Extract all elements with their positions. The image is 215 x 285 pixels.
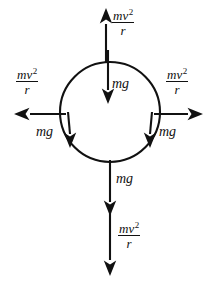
fraction-mv2r: mv2 r xyxy=(112,9,134,37)
fraction-denominator: r xyxy=(112,23,134,37)
vector-mv2r-top xyxy=(100,8,112,62)
label-mv2r-left: mv2 r xyxy=(16,68,38,96)
numerator-exponent: 2 xyxy=(33,66,38,76)
vector-mv2r-left xyxy=(14,108,66,120)
fraction-denominator: r xyxy=(166,82,188,96)
numerator-text: mv xyxy=(119,221,134,236)
numerator-exponent: 2 xyxy=(129,7,134,17)
numerator-exponent: 2 xyxy=(135,220,140,230)
fraction-numerator: mv2 xyxy=(166,68,188,82)
label-mv2r-bottom: mv2 r xyxy=(118,222,140,250)
label-mg-bottom: mg xyxy=(116,172,133,186)
vector-mg-bottom xyxy=(104,160,116,216)
label-mg-top: mg xyxy=(112,77,129,91)
force-diagram: mv2 r mv2 r mv2 r mv2 r mg mg mg mg xyxy=(0,0,215,285)
diagram-canvas xyxy=(0,0,215,285)
label-mv2r-top: mv2 r xyxy=(112,9,134,37)
numerator-text: mv xyxy=(113,8,128,23)
ball-circle xyxy=(60,62,160,162)
numerator-exponent: 2 xyxy=(183,66,188,76)
fraction-denominator: r xyxy=(16,82,38,96)
fraction-mv2r: mv2 r xyxy=(16,68,38,96)
vector-mg-left xyxy=(64,112,76,148)
label-mv2r-right: mv2 r xyxy=(166,68,188,96)
label-mg-left: mg xyxy=(36,125,53,139)
fraction-mv2r: mv2 r xyxy=(118,222,140,250)
label-mg-right: mg xyxy=(159,125,176,139)
fraction-numerator: mv2 xyxy=(118,222,140,236)
fraction-numerator: mv2 xyxy=(112,9,134,23)
vector-mv2r-bottom xyxy=(104,212,116,276)
fraction-numerator: mv2 xyxy=(16,68,38,82)
fraction-denominator: r xyxy=(118,236,140,250)
vector-mg-right xyxy=(144,112,156,148)
numerator-text: mv xyxy=(167,67,182,82)
fraction-mv2r: mv2 r xyxy=(166,68,188,96)
vector-mv2r-right xyxy=(154,108,203,120)
numerator-text: mv xyxy=(17,67,32,82)
